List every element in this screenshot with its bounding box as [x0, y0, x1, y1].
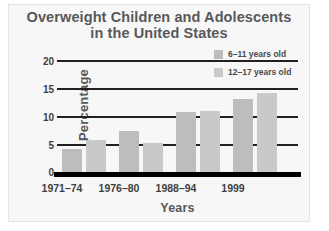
chart-title: Overweight Children and Adolescents in t… [9, 9, 309, 41]
bar-2-0[interactable] [176, 112, 196, 172]
bar-0-1[interactable] [86, 140, 106, 172]
bar-1-0[interactable] [119, 131, 139, 172]
bar-3-0[interactable] [233, 99, 253, 172]
x-axis-tick-3: 1999 [193, 182, 273, 194]
x-axis-line [54, 172, 301, 177]
y-axis-tick-10: 10 [28, 112, 54, 123]
plot-area: Percentage [57, 55, 298, 174]
chart-title-line-2: in the United States [9, 25, 309, 41]
bar-2-1[interactable] [200, 111, 220, 172]
bar-3-1[interactable] [257, 93, 277, 172]
bar-1-1[interactable] [143, 143, 163, 172]
y-axis-tick-20: 20 [28, 56, 54, 67]
y-axis-tick-0: 0 [28, 167, 54, 178]
x-axis-title: Years [57, 201, 298, 215]
chart-title-line-1: Overweight Children and Adolescents [27, 9, 292, 25]
y-axis-tick-5: 5 [28, 140, 54, 151]
bar-group-2 [176, 55, 220, 172]
bar-series-container [57, 55, 298, 172]
bar-group-3 [233, 55, 277, 172]
bar-group-1 [119, 55, 163, 172]
chart-figure: Overweight Children and Adolescents in t… [0, 0, 329, 231]
bar-0-0[interactable] [62, 149, 82, 172]
y-axis-tick-15: 15 [28, 84, 54, 95]
bar-group-0 [62, 55, 106, 172]
